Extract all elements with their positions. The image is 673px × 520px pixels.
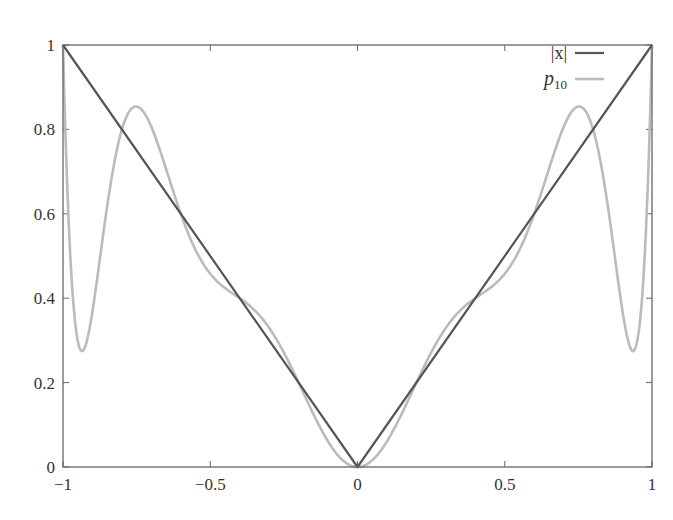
y-tick-label: 1 bbox=[47, 36, 56, 55]
plot-frame bbox=[63, 45, 652, 467]
series-p10-line bbox=[63, 45, 652, 467]
plot-axes: −1−0.500.5100.20.40.60.81 bbox=[34, 36, 657, 494]
x-tick-label: 0 bbox=[353, 475, 362, 494]
legend-label: |x| bbox=[551, 43, 567, 63]
legend-item-abs-x: |x| bbox=[551, 43, 604, 63]
series-abs-x-line bbox=[63, 45, 652, 467]
y-tick-label: 0.4 bbox=[34, 289, 56, 308]
legend: |x|p10 bbox=[542, 43, 604, 92]
y-tick-label: 0.2 bbox=[34, 374, 55, 393]
plot-curves bbox=[63, 45, 652, 467]
x-tick-label: 1 bbox=[648, 475, 657, 494]
x-tick-label: 0.5 bbox=[494, 475, 515, 494]
y-tick-label: 0.8 bbox=[34, 120, 55, 139]
legend-item-p10: p10 bbox=[542, 67, 604, 92]
y-tick-label: 0 bbox=[47, 458, 56, 477]
x-tick-label: −0.5 bbox=[195, 475, 226, 494]
y-tick-label: 0.6 bbox=[34, 205, 55, 224]
plot-border bbox=[63, 45, 652, 467]
legend-label: p10 bbox=[542, 67, 567, 92]
chart: −1−0.500.5100.20.40.60.81 |x|p10 bbox=[0, 0, 673, 520]
x-tick-label: −1 bbox=[54, 475, 72, 494]
